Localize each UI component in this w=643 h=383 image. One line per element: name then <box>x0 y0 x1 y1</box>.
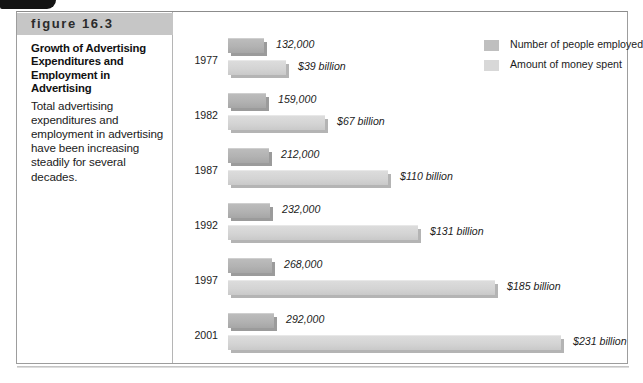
figure-number-label: figure 16.3 <box>31 16 114 31</box>
frame-shadow <box>17 366 629 368</box>
corner-tab <box>0 0 56 9</box>
year-label: 1992 <box>180 219 218 231</box>
bar-money[interactable] <box>228 170 388 185</box>
bar-value-money: $131 billion <box>430 225 484 237</box>
bar-group: 1987212,000$110 billion <box>174 144 627 200</box>
bar-value-employed: 132,000 <box>276 38 314 50</box>
year-label: 1982 <box>180 109 218 121</box>
caption-body: Growth of Advertising Expenditures and E… <box>31 42 167 184</box>
bar-employed[interactable] <box>228 258 272 273</box>
chart-plot-area: Number of people employed Amount of mone… <box>174 12 627 363</box>
year-label: 1997 <box>180 274 218 286</box>
bar-value-employed: 292,000 <box>286 313 324 325</box>
bar-value-money: $110 billion <box>400 170 453 182</box>
bar-money[interactable] <box>228 225 418 240</box>
bar-employed[interactable] <box>228 203 270 218</box>
bar-group: 1977132,000$39 billion <box>174 34 627 90</box>
bar-value-employed: 212,000 <box>281 148 319 160</box>
bar-employed[interactable] <box>228 148 269 163</box>
bar-money[interactable] <box>228 60 286 75</box>
year-label: 2001 <box>180 329 218 341</box>
bar-group: 1982159,000$67 billion <box>174 89 627 145</box>
bar-employed[interactable] <box>228 38 264 53</box>
bar-group: 1997268,000$185 billion <box>174 254 627 310</box>
bar-employed[interactable] <box>228 313 274 328</box>
figure-description: Total advertising expenditures and emplo… <box>31 99 167 184</box>
bar-value-money: $185 billion <box>507 280 561 292</box>
bar-employed[interactable] <box>228 93 266 108</box>
bar-value-employed: 159,000 <box>278 93 316 105</box>
figure-frame: figure 16.3 Growth of Advertising Expend… <box>16 11 628 364</box>
bar-group: 2001292,000$231 billion <box>174 309 627 365</box>
bar-money[interactable] <box>228 335 561 350</box>
year-label: 1987 <box>180 164 218 176</box>
caption-column: figure 16.3 Growth of Advertising Expend… <box>17 12 173 363</box>
bar-value-money: $231 billion <box>573 335 627 347</box>
bar-group: 1992232,000$131 billion <box>174 199 627 255</box>
figure-title: Growth of Advertising Expenditures and E… <box>31 42 167 96</box>
bar-value-employed: 232,000 <box>282 203 320 215</box>
bar-value-money: $39 billion <box>298 60 346 72</box>
bar-money[interactable] <box>228 280 495 295</box>
bar-value-employed: 268,000 <box>284 258 322 270</box>
year-label: 1977 <box>180 54 218 66</box>
bar-value-money: $67 billion <box>337 115 385 127</box>
bar-money[interactable] <box>228 115 325 130</box>
